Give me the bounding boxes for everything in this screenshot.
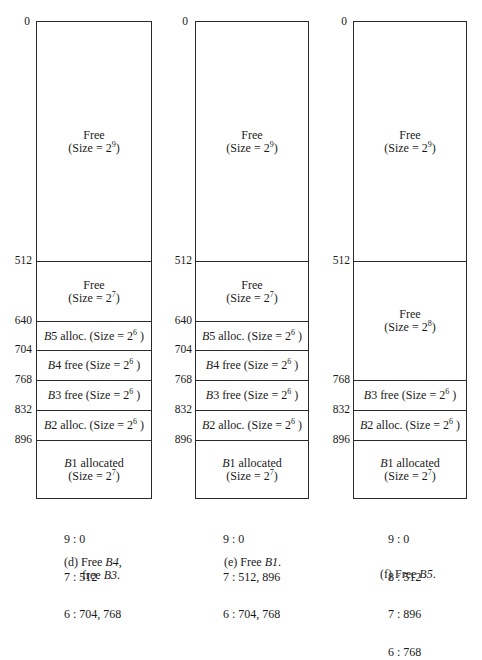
segment-size: (Size = 29) bbox=[226, 142, 277, 155]
free-list-entry: 9 : 0 bbox=[64, 533, 121, 546]
panel-caption: (d) Free B4, free B3. bbox=[64, 556, 122, 582]
segment-label: B4 free (Size = 26 ) bbox=[48, 359, 140, 372]
memory-segment-free: Free (Size = 29) bbox=[196, 22, 308, 261]
segment-label: B3 free (Size = 26 ) bbox=[48, 389, 140, 402]
memory-segment-free: Free (Size = 29) bbox=[37, 22, 151, 261]
free-list-entry: 9 : 0 bbox=[388, 533, 421, 546]
segment-label: B5 alloc. (Size = 26 ) bbox=[44, 330, 144, 343]
address-label: 896 bbox=[162, 433, 192, 445]
memory-segment-b5: B5 alloc. (Size = 26 ) bbox=[37, 321, 151, 350]
memory-segment-b1: B1 allocated (Size = 27) bbox=[354, 440, 466, 498]
address-label: 0 bbox=[317, 15, 347, 27]
memory-segment-b5: B5 alloc. (Size = 26 ) bbox=[196, 321, 308, 350]
segment-label: B5 alloc. (Size = 26 ) bbox=[202, 330, 302, 343]
panel-d: 0 512 640 704 768 832 896 Free (Size = 2… bbox=[0, 0, 160, 590]
segment-label: B4 free (Size = 26 ) bbox=[206, 359, 298, 372]
address-label: 640 bbox=[2, 314, 32, 326]
free-list: 9 : 0 7 : 512, 896 6 : 704, 768 bbox=[223, 508, 280, 646]
address-label: 832 bbox=[2, 403, 32, 415]
memory-segment-free: Free (Size = 29) bbox=[354, 22, 466, 261]
segment-label: B2 alloc. (Size = 26 ) bbox=[360, 419, 460, 432]
memory-block-diagram: Free (Size = 29) Free (Size = 27) B5 all… bbox=[195, 21, 309, 499]
address-label: 768 bbox=[162, 373, 192, 385]
address-label: 896 bbox=[2, 433, 32, 445]
segment-size: (Size = 28) bbox=[384, 321, 435, 334]
segment-size: (Size = 27) bbox=[226, 470, 277, 483]
address-label: 704 bbox=[2, 343, 32, 355]
segment-size: (Size = 27) bbox=[226, 292, 277, 305]
panel-caption: (e) Free B1. bbox=[224, 556, 281, 569]
panel-caption: (f) Free B5. bbox=[380, 568, 436, 581]
free-list-entry: 6 : 704, 768 bbox=[223, 608, 280, 621]
segment-size: (Size = 27) bbox=[68, 470, 119, 483]
segment-size: (Size = 29) bbox=[384, 142, 435, 155]
address-label: 512 bbox=[2, 254, 32, 266]
address-label: 512 bbox=[320, 254, 350, 266]
memory-segment-b2: B2 alloc. (Size = 26 ) bbox=[354, 410, 466, 440]
address-label: 0 bbox=[158, 15, 188, 27]
segment-label: B2 alloc. (Size = 26 ) bbox=[44, 419, 144, 432]
memory-segment-b4: B4 free (Size = 26 ) bbox=[196, 350, 308, 380]
free-list-entry: 6 : 704, 768 bbox=[64, 608, 121, 621]
free-list-entry: 6 : 768 bbox=[388, 646, 421, 659]
free-list-entry: 7 : 896 bbox=[388, 608, 421, 621]
address-label: 704 bbox=[162, 343, 192, 355]
memory-segment-b1: B1 allocated (Size = 27) bbox=[37, 440, 151, 498]
memory-segment-b4: B4 free (Size = 26 ) bbox=[37, 350, 151, 380]
address-label: 640 bbox=[162, 314, 192, 326]
memory-segment-b3: B3 free (Size = 26 ) bbox=[354, 380, 466, 410]
segment-label: B3 free (Size = 26 ) bbox=[206, 389, 298, 402]
free-list-entry: 7 : 512, 896 bbox=[223, 571, 280, 584]
segment-label: B2 alloc. (Size = 26 ) bbox=[202, 419, 302, 432]
panel-e: 0 512 640 704 768 832 896 Free (Size = 2… bbox=[160, 0, 320, 590]
memory-segment-b2: B2 alloc. (Size = 26 ) bbox=[196, 410, 308, 440]
address-label: 512 bbox=[162, 254, 192, 266]
address-label: 0 bbox=[0, 15, 30, 27]
memory-segment-free: Free (Size = 28) bbox=[354, 261, 466, 380]
memory-block-diagram: Free (Size = 29) Free (Size = 28) B3 fre… bbox=[353, 21, 467, 499]
memory-segment-b2: B2 alloc. (Size = 26 ) bbox=[37, 410, 151, 440]
address-label: 832 bbox=[320, 403, 350, 415]
address-label: 768 bbox=[320, 373, 350, 385]
address-label: 768 bbox=[2, 373, 32, 385]
segment-size: (Size = 29) bbox=[68, 142, 119, 155]
panel-f: 0 512 768 832 896 Free (Size = 29) Free … bbox=[320, 0, 482, 590]
memory-segment-b1: B1 allocated (Size = 27) bbox=[196, 440, 308, 498]
segment-label: B3 free (Size = 26 ) bbox=[364, 389, 456, 402]
address-label: 832 bbox=[162, 403, 192, 415]
segment-size: (Size = 27) bbox=[384, 470, 435, 483]
free-list: 9 : 0 8 : 512 7 : 896 6 : 768 bbox=[388, 508, 421, 660]
memory-segment-b3: B3 free (Size = 26 ) bbox=[196, 380, 308, 410]
address-label: 896 bbox=[320, 433, 350, 445]
segment-size: (Size = 27) bbox=[68, 292, 119, 305]
free-list-entry: 9 : 0 bbox=[223, 533, 280, 546]
memory-segment-free: Free (Size = 27) bbox=[196, 261, 308, 321]
memory-segment-b3: B3 free (Size = 26 ) bbox=[37, 380, 151, 410]
memory-block-diagram: Free (Size = 29) Free (Size = 27) B5 all… bbox=[36, 21, 152, 499]
memory-segment-free: Free (Size = 27) bbox=[37, 261, 151, 321]
